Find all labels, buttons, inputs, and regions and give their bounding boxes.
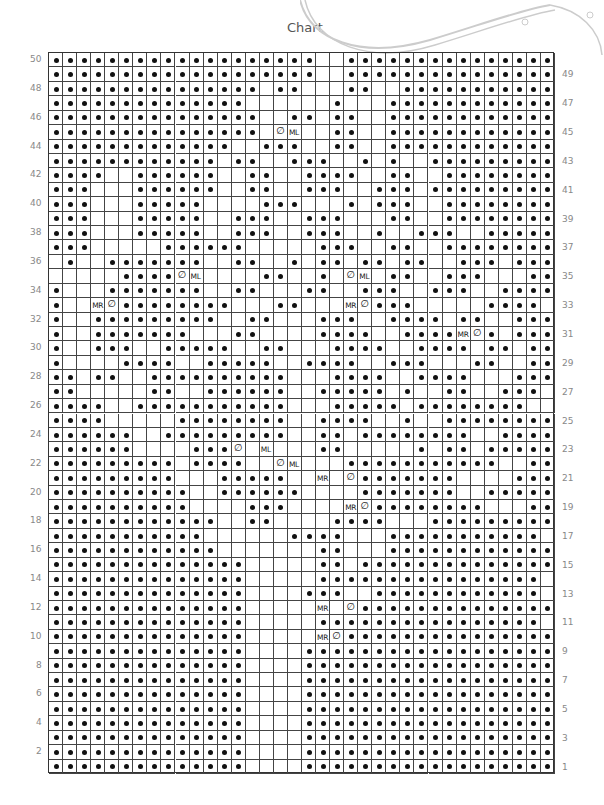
purl-dot-icon (194, 72, 199, 77)
chart-cell (91, 673, 105, 687)
purl-dot-icon (208, 144, 213, 149)
chart-cell (133, 745, 147, 759)
chart-cell (119, 587, 133, 601)
chart-cell (161, 327, 175, 341)
purl-dot-icon (110, 678, 115, 683)
purl-dot-icon (250, 288, 255, 293)
chart-cell (147, 572, 161, 586)
chart-cell (274, 183, 288, 197)
purl-dot-icon (475, 692, 480, 697)
purl-dot-icon (110, 159, 115, 164)
chart-cell (91, 96, 105, 110)
purl-dot-icon (503, 101, 508, 106)
chart-cell (190, 644, 204, 658)
chart-cell (49, 615, 63, 629)
chart-cell (133, 486, 147, 500)
purl-dot-icon (461, 288, 466, 293)
purl-dot-icon (503, 663, 508, 668)
chart-cell (414, 414, 428, 428)
chart-cell (147, 644, 161, 658)
purl-dot-icon (517, 606, 522, 611)
purl-dot-icon (180, 721, 185, 726)
purl-dot-icon (335, 562, 340, 567)
chart-cell (316, 327, 330, 341)
chart-cell (274, 255, 288, 269)
chart-cell (176, 529, 190, 543)
purl-dot-icon (124, 591, 129, 596)
purl-dot-icon (489, 101, 494, 106)
purl-dot-icon (194, 447, 199, 452)
purl-dot-icon (363, 634, 368, 639)
purl-dot-icon (152, 187, 157, 192)
chart-cell (63, 240, 77, 254)
chart-cell (400, 53, 414, 67)
purl-dot-icon (194, 562, 199, 567)
purl-dot-icon (250, 418, 255, 423)
chart-cell (119, 96, 133, 110)
purl-dot-icon (391, 692, 396, 697)
purl-dot-icon (489, 634, 494, 639)
purl-dot-icon (475, 361, 480, 366)
purl-dot-icon (377, 490, 382, 495)
chart-cell (91, 716, 105, 730)
chart-cell (49, 298, 63, 312)
purl-dot-icon (124, 519, 129, 524)
chart-cell (288, 687, 302, 701)
chart-cell (260, 140, 274, 154)
purl-dot-icon (208, 663, 213, 668)
purl-dot-icon (82, 72, 87, 77)
purl-dot-icon (222, 375, 227, 380)
purl-dot-icon (138, 476, 143, 481)
chart-cell (288, 486, 302, 500)
chart-cell (316, 745, 330, 759)
chart-cell (232, 53, 246, 67)
chart-cell (400, 442, 414, 456)
purl-dot-icon (180, 707, 185, 712)
purl-dot-icon (363, 288, 368, 293)
purl-dot-icon (152, 663, 157, 668)
purl-dot-icon (250, 260, 255, 265)
chart-cell (260, 630, 274, 644)
purl-dot-icon (208, 649, 213, 654)
chart-cell (358, 140, 372, 154)
chart-cell (330, 269, 344, 283)
chart-cell (386, 731, 400, 745)
chart-cell (429, 601, 443, 615)
purl-dot-icon (194, 404, 199, 409)
chart-cell (358, 543, 372, 557)
chart-cell (400, 731, 414, 745)
purl-dot-icon (377, 606, 382, 611)
chart-cell (91, 687, 105, 701)
chart-cell (485, 154, 499, 168)
purl-dot-icon (194, 606, 199, 611)
purl-dot-icon (236, 159, 241, 164)
purl-dot-icon (405, 173, 410, 178)
purl-dot-icon (405, 274, 410, 279)
purl-dot-icon (321, 721, 326, 726)
chart-cell (344, 313, 358, 327)
purl-dot-icon (517, 144, 522, 149)
chart-cell (246, 313, 260, 327)
purl-dot-icon (531, 606, 536, 611)
purl-dot-icon (489, 115, 494, 120)
chart-cell (471, 212, 485, 226)
chart-cell (119, 442, 133, 456)
purl-dot-icon (96, 447, 101, 452)
chart-cell (176, 601, 190, 615)
chart-cell (105, 399, 119, 413)
purl-dot-icon (194, 519, 199, 524)
purl-dot-icon (82, 591, 87, 596)
purl-dot-icon (349, 649, 354, 654)
purl-dot-icon (152, 317, 157, 322)
chart-cell (119, 529, 133, 543)
chart-cell (372, 140, 386, 154)
chart-cell (260, 558, 274, 572)
chart-cell (77, 601, 91, 615)
chart-cell: ∅ (344, 269, 358, 283)
chart-cell (316, 370, 330, 384)
chart-cell (485, 457, 499, 471)
purl-dot-icon (349, 519, 354, 524)
chart-cell (527, 702, 541, 716)
row-number-right: 19 (562, 502, 573, 512)
row-number-left: 28 (30, 371, 41, 381)
